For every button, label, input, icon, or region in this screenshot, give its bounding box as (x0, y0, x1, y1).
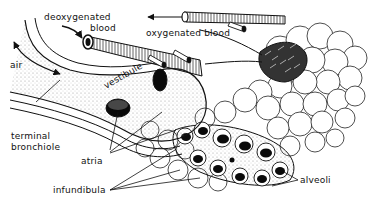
label-terminal: terminal (11, 131, 50, 141)
label-air: air (10, 60, 22, 70)
label-alveoli: alveoli (300, 175, 331, 185)
oxygenated-vessel (148, 12, 285, 24)
deoxygenated-pointer (62, 26, 82, 38)
label-oxygenated-blood: oxygenated blood (146, 28, 230, 38)
label-deoxygenated: deoxygenated (44, 12, 111, 22)
label-bronchiole: bronchiole (11, 142, 60, 152)
label-infundibula: infundibula (53, 185, 106, 195)
label-blood: blood (90, 23, 116, 33)
respiratory-unit-diagram: deoxygenated blood oxygenated blood air … (0, 0, 375, 204)
label-atria: atria (81, 156, 103, 166)
